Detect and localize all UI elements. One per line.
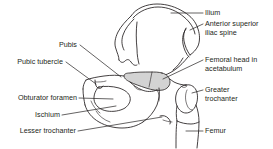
femoral-shaft-medial-flare	[177, 121, 199, 124]
iliac-fossa-ridge	[136, 22, 139, 64]
ischium-posterior-border	[85, 105, 143, 128]
leader-line-pubic-tubercle	[66, 62, 96, 84]
label-femur: Femur	[205, 127, 226, 136]
greater-trochanter	[176, 85, 198, 113]
ilium-anterior-notch	[119, 60, 137, 66]
lesser-trochanter-base	[163, 120, 172, 122]
anatomy-figure: Ilium Anterior superior iliac spine Femo…	[0, 0, 273, 149]
label-femoral-head-line2: acetabulum	[205, 65, 242, 74]
pubic-symphysis-border	[83, 89, 85, 105]
pubic-tubercle-ridge	[95, 81, 106, 82]
superior-pubic-ramus	[86, 75, 124, 80]
label-lesser-trochanter: Lesser trochanter	[20, 127, 76, 136]
ilium-anterior-border	[115, 16, 131, 60]
pubic-body-top	[83, 80, 86, 89]
label-greater-trochanter-line2: trochanter	[205, 95, 238, 104]
femoral-shaft-lateral	[196, 105, 199, 148]
label-ischium: Ischium	[35, 111, 60, 120]
ischial-tuberosity-contour	[96, 111, 110, 122]
ischial-ramus	[143, 88, 159, 122]
leader-line-pubis	[80, 45, 121, 77]
label-anterior-superior-iliac-spine-line2: iliac spine	[205, 29, 237, 38]
femoral-head-and-neck-shading	[124, 72, 170, 90]
label-ilium: Ilium	[205, 9, 220, 18]
greater-trochanter-inner-ridge	[186, 90, 193, 110]
leader-line-lesser-trochanter	[78, 117, 162, 131]
label-pubic-tubercle: Pubic tubercle	[17, 58, 63, 67]
label-pubis: Pubis	[59, 41, 77, 50]
leader-line-greater-trochanter	[192, 90, 203, 93]
femoral-shaft-medial	[176, 121, 177, 148]
intertrochanteric-line	[176, 106, 177, 121]
label-obturator-foramen: Obturator foramen	[18, 94, 77, 103]
